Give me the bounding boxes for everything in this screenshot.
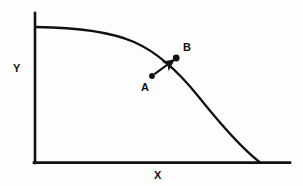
y-axis-label: Y — [13, 63, 20, 74]
point-b-marker — [173, 55, 180, 62]
point-a-label: A — [141, 82, 149, 93]
x-axis-label: X — [154, 170, 161, 181]
frontier-curve — [36, 27, 260, 162]
ppf-curve-figure: Y X A B — [0, 0, 303, 186]
point-a-marker — [149, 73, 155, 79]
figure-canvas — [0, 0, 303, 186]
point-b-label: B — [183, 42, 191, 53]
